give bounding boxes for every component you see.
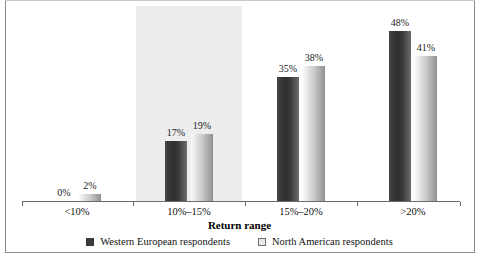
bar-north-american-0: [79, 194, 101, 201]
figure-border-right: [474, 0, 475, 253]
figure-border-left: [5, 0, 6, 253]
category-label-1: 10%–15%: [129, 206, 249, 217]
category-label-3: >20%: [353, 206, 473, 217]
x-axis-line: [22, 201, 460, 202]
legend-swatch-light-icon: [258, 238, 266, 246]
data-label-north-american-3: 41%: [405, 42, 447, 53]
legend-item-north-american[interactable]: North American respondents: [258, 236, 393, 247]
bar-western-european-3: [389, 31, 411, 201]
bar-north-american-1: [191, 134, 213, 201]
bar-western-european-2: [277, 77, 299, 201]
data-label-north-american-1: 19%: [181, 120, 223, 131]
x-axis-title: Return range: [0, 219, 479, 231]
data-label-north-american-2: 38%: [293, 52, 335, 63]
legend-swatch-dark-icon: [86, 238, 94, 246]
chart-figure: 0%2%17%19%35%38%48%41% <10%10%–15%15%–20…: [0, 0, 479, 253]
bar-western-european-1: [165, 141, 187, 201]
bar-north-american-2: [303, 66, 325, 201]
legend-item-western-european[interactable]: Western European respondents: [86, 236, 230, 247]
legend-label-north-american: North American respondents: [272, 236, 393, 247]
legend-label-western-european: Western European respondents: [100, 236, 230, 247]
data-label-north-american-0: 2%: [69, 180, 111, 191]
category-label-2: 15%–20%: [241, 206, 361, 217]
bar-north-american-3: [415, 56, 437, 201]
figure-border-top: [5, 0, 475, 1]
chart-legend: Western European respondents North Ameri…: [0, 236, 479, 247]
data-label-western-european-3: 48%: [379, 17, 421, 28]
category-label-0: <10%: [17, 206, 137, 217]
